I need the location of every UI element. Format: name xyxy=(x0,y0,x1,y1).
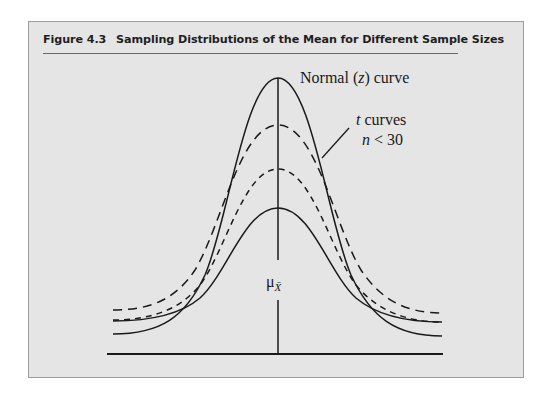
t-curves-leader-line xyxy=(322,128,349,158)
mean-symbol-label: μX̄ xyxy=(266,273,283,293)
sample-size-condition-label: n < 30 xyxy=(362,131,403,148)
sampling-distribution-chart: Normal (z) curve t curves n < 30 μX̄ xyxy=(0,0,549,401)
t-curves-label: t curves xyxy=(356,111,406,128)
normal-curve-label: Normal (z) curve xyxy=(300,69,409,87)
